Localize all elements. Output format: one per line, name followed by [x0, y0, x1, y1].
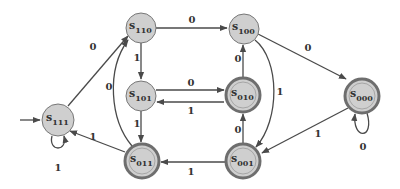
state-s111: s111	[42, 104, 74, 136]
edge-label: 1	[134, 118, 141, 129]
edge-s000-s000	[355, 113, 369, 133]
state-s101: s101	[126, 81, 156, 111]
edge-label: 0	[189, 14, 196, 25]
edge-label: 0	[235, 53, 242, 64]
edge-label: 0	[188, 77, 195, 88]
state-diagram: 1 0 0 1 0 1 1 0 1 0 0 1 0	[0, 0, 400, 189]
edge-label: 0	[360, 141, 367, 152]
edge-label: 1	[134, 52, 141, 63]
state-s110: s110	[126, 13, 156, 43]
edge-s011-s111	[70, 131, 125, 152]
edges: 1 0 0 1 0 1 1 0 1 0 0 1 0	[20, 14, 369, 177]
edge-s100-s000	[258, 34, 346, 79]
edge-label: 0	[235, 124, 242, 135]
edge-label: 1	[188, 105, 195, 116]
edge-label: 1	[90, 131, 97, 142]
edge-s000-s001	[262, 108, 348, 153]
edge-label: 0	[305, 42, 312, 53]
state-s010: s010	[226, 78, 260, 112]
edge-s111-s111	[51, 136, 64, 148]
edge-label: 1	[188, 166, 195, 177]
edge-label: 1	[277, 86, 284, 97]
edge-s111-s110	[68, 36, 128, 106]
edge-label: 1	[315, 128, 322, 139]
state-s001: s001	[226, 144, 260, 178]
edge-label: 1	[55, 162, 62, 173]
state-s100: s100	[229, 14, 259, 44]
state-s011: s011	[125, 144, 159, 178]
edge-label: 0	[106, 81, 113, 92]
state-s000: s000	[345, 79, 379, 113]
edge-label: 0	[90, 41, 97, 52]
